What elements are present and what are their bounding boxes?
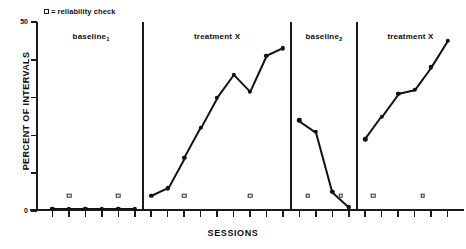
legend-equals: = [51, 7, 55, 16]
data-point [363, 137, 367, 141]
x-tick-25 [447, 211, 449, 217]
x-tick-8 [167, 211, 169, 217]
x-tick-4 [101, 211, 103, 217]
x-tick-15 [282, 211, 284, 217]
legend: = reliability check [44, 7, 115, 16]
open-square-marker-icon [44, 9, 49, 14]
data-point [379, 114, 383, 118]
legend-label: reliability check [57, 7, 115, 16]
x-tick-17 [315, 211, 317, 217]
x-tick-19 [348, 211, 350, 217]
data-point [445, 39, 449, 43]
x-tick-1 [52, 211, 54, 217]
x-tick-2 [68, 211, 70, 217]
y-axis-title: PERCENT OF INTERVALS [21, 41, 31, 181]
reliability-check-marker [116, 194, 121, 199]
reliability-check-marker [421, 194, 426, 199]
reliability-check-marker [67, 194, 72, 199]
x-tick-21 [381, 211, 383, 217]
x-tick-22 [397, 211, 399, 217]
x-tick-12 [233, 211, 235, 217]
x-tick-16 [299, 211, 301, 217]
reliability-check-marker [248, 194, 253, 199]
x-tick-18 [332, 211, 334, 217]
y-tick-label-0: 0 [24, 207, 28, 214]
x-tick-11 [216, 211, 218, 217]
chart-figure: = reliability check PERCENT OF INTERVALS… [0, 0, 466, 249]
plot-area: 050 baseline1treatment Xbaseline2treatme… [36, 22, 464, 211]
x-tick-10 [200, 211, 202, 217]
x-tick-7 [150, 211, 152, 217]
reliability-check-marker [371, 194, 376, 199]
line-segment [365, 116, 383, 140]
x-tick-5 [118, 211, 120, 217]
x-tick-3 [85, 211, 87, 217]
data-point [396, 92, 400, 96]
reliability-check-marker [305, 194, 310, 199]
x-axis-title: SESSIONS [0, 228, 466, 238]
x-tick-24 [430, 211, 432, 217]
reliability-check-marker [182, 194, 187, 199]
x-tick-20 [364, 211, 366, 217]
y-tick-label-50: 50 [20, 18, 28, 25]
line-segment [381, 93, 399, 117]
line-segment [414, 67, 432, 91]
line-segment [430, 41, 448, 68]
x-tick-23 [414, 211, 416, 217]
x-tick-14 [266, 211, 268, 217]
x-tick-9 [183, 211, 185, 217]
series-treatment-x-2 [36, 22, 464, 211]
reliability-check-marker [338, 194, 343, 199]
data-point [429, 65, 433, 69]
x-tick-13 [249, 211, 251, 217]
data-point [412, 88, 416, 92]
x-tick-6 [134, 211, 136, 217]
